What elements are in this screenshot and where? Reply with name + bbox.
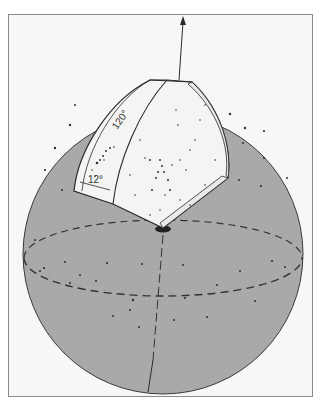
axis-arrow-icon [180,16,186,25]
rotation-axis-top [179,22,183,80]
sphere-diagram: 120° 12° [0,0,324,405]
